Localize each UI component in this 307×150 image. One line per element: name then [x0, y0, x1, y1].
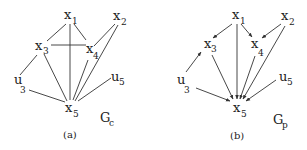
edge-u3-to-x5: [196, 88, 230, 101]
graph-label-gp: G p: [273, 112, 288, 130]
panel-a-undirected-graph: x 1 x 2 x 3 x 4 x 5 u 3 u 5 G c: [14, 7, 127, 140]
svg-text:p: p: [282, 120, 288, 130]
node-u3: u 3: [14, 72, 26, 95]
edge-x2-to-x4: [262, 24, 281, 38]
svg-text:x: x: [35, 38, 43, 53]
panel-b-directed-graph: x 1 x 2 x 3 x 4 x 5 u 3 u 5 G p: [177, 7, 295, 141]
svg-text:4: 4: [93, 51, 99, 61]
svg-text:x: x: [281, 8, 289, 23]
edge-x3-to-x5: [212, 55, 233, 99]
node-x2: x 2: [281, 8, 295, 27]
graph-label-gc: G c: [100, 110, 114, 128]
svg-text:3: 3: [20, 85, 26, 95]
edge-u3-to-x3: [186, 52, 201, 72]
svg-text:3: 3: [211, 44, 217, 54]
node-x1: x 1: [232, 7, 246, 26]
svg-text:1: 1: [240, 16, 246, 26]
svg-text:5: 5: [241, 109, 247, 119]
svg-text:2: 2: [289, 17, 295, 27]
edge-u3-x5: [29, 90, 65, 102]
edge-x4-x5: [73, 60, 88, 100]
svg-text:x: x: [233, 100, 241, 115]
svg-text:c: c: [109, 118, 114, 128]
svg-text:3: 3: [43, 46, 49, 56]
node-x3: x 3: [204, 36, 217, 54]
svg-text:x: x: [65, 100, 73, 115]
edge-x3-u3: [20, 55, 37, 75]
svg-text:5: 5: [73, 109, 79, 119]
edge-x1-x4: [74, 24, 86, 40]
edge-x1-to-x3: [213, 24, 232, 38]
figure: x 1 x 2 x 3 x 4 x 5 u 3 u 5 G c: [0, 0, 307, 150]
edge-x2-x5: [75, 25, 118, 101]
node-u3: u 3: [177, 72, 190, 95]
node-x5: x 5: [233, 100, 247, 119]
edge-x1-x3: [47, 24, 66, 41]
node-x4: x 4: [251, 36, 264, 58]
svg-text:x: x: [232, 7, 240, 22]
svg-text:2: 2: [121, 17, 127, 27]
panel-a-edges: [20, 24, 118, 102]
edge-x3-x5: [44, 54, 67, 101]
node-x1: x 1: [64, 7, 78, 26]
edge-u5-x5: [78, 78, 111, 101]
svg-text:x: x: [64, 7, 72, 22]
edge-u5-to-x5: [246, 80, 276, 101]
svg-text:x: x: [113, 8, 121, 23]
node-u5: u 5: [111, 69, 125, 87]
node-x4: x 4: [86, 41, 99, 61]
svg-text:4: 4: [258, 48, 264, 58]
node-u5: u 5: [279, 69, 293, 87]
svg-text:3: 3: [184, 85, 190, 95]
svg-text:5: 5: [287, 77, 293, 87]
edge-x4-to-x5: [240, 56, 255, 99]
caption-a: (a): [63, 129, 77, 140]
svg-text:1: 1: [72, 16, 78, 26]
panel-b-edges: [186, 24, 285, 101]
svg-text:5: 5: [119, 77, 125, 87]
node-x5: x 5: [65, 100, 79, 119]
caption-b: (b): [230, 130, 244, 141]
